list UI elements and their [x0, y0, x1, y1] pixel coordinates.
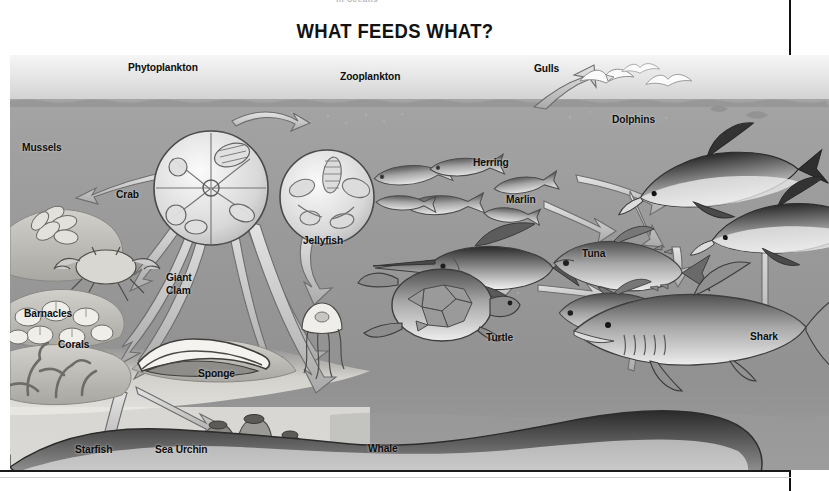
label-starfish: Starfish — [75, 443, 112, 456]
label-jellyfish: Jellyfish — [303, 234, 343, 247]
page-rule-vertical-bottom — [789, 470, 791, 491]
page-title: WHAT FEEDS WHAT? — [47, 19, 742, 43]
label-zooplankton: Zooplankton — [340, 70, 400, 83]
label-barnacles: Barnacles — [24, 307, 72, 320]
ocean-food-web-illustration: Phytoplankton Zooplankton Gulls Dolphins… — [10, 55, 829, 470]
label-phytoplankton: Phytoplankton — [128, 61, 198, 74]
label-tuna: Tuna — [582, 247, 605, 260]
label-corals: Corals — [58, 338, 89, 351]
label-marlin: Marlin — [506, 193, 536, 206]
food-web-artwork — [10, 55, 829, 470]
page-rule-horizontal — [0, 470, 791, 472]
label-shark: Shark — [750, 330, 778, 343]
label-mussels: Mussels — [22, 141, 62, 154]
label-turtle: Turtle — [486, 331, 513, 344]
label-crab: Crab — [116, 188, 139, 201]
label-dolphins: Dolphins — [612, 113, 655, 126]
page-root: in oceans WHAT FEEDS WHAT? — [0, 0, 829, 491]
page-rule-vertical-top — [789, 0, 791, 55]
label-whale: Whale — [368, 442, 398, 455]
label-herring: Herring — [473, 156, 509, 169]
cropped-header-strip: in oceans — [0, 0, 829, 9]
label-sponge: Sponge — [198, 367, 235, 380]
label-giant-clam: Giant Clam — [166, 271, 192, 296]
page-rule-horizontal-faint — [0, 477, 791, 478]
label-sea-urchin: Sea Urchin — [155, 443, 208, 456]
cropped-header-text: in oceans — [336, 0, 378, 4]
label-gulls: Gulls — [534, 62, 559, 75]
